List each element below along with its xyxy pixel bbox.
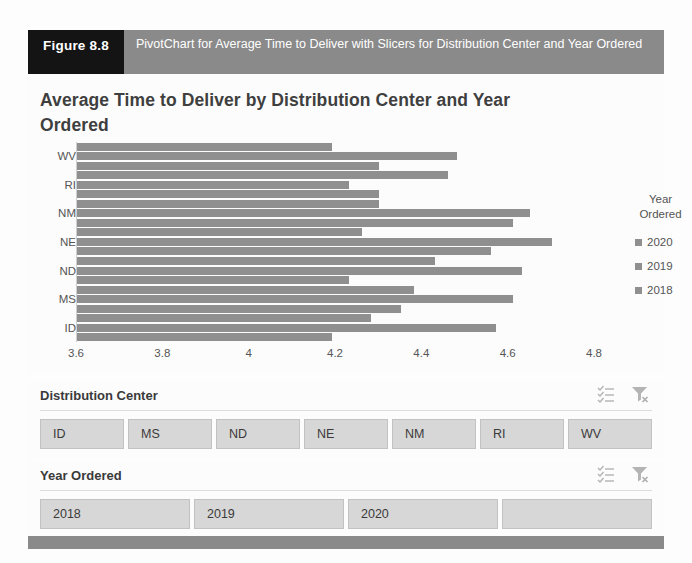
slicer-title: Distribution Center — [40, 388, 158, 403]
bar-group — [77, 171, 594, 200]
bar[interactable] — [77, 190, 379, 198]
category-label: WV — [30, 150, 76, 162]
category-label: RI — [30, 179, 76, 191]
bar[interactable] — [77, 305, 401, 313]
x-axis-tick: 4.8 — [586, 347, 602, 359]
bar[interactable] — [77, 238, 552, 246]
slicer-item[interactable]: 2019 — [194, 499, 344, 529]
clear-filter-icon[interactable] — [630, 384, 650, 404]
multi-select-icon[interactable] — [596, 384, 616, 404]
slicer-header: Year Ordered — [28, 462, 664, 488]
slicer-item-list: 201820192020 — [28, 491, 664, 539]
slicer-item[interactable]: NM — [392, 419, 476, 449]
x-axis-tick: 3.6 — [68, 347, 84, 359]
slicer-item[interactable]: WV — [568, 419, 652, 449]
chart-title: Average Time to Deliver by Distribution … — [40, 88, 520, 138]
bar[interactable] — [77, 143, 332, 151]
slicer-item[interactable]: ID — [40, 419, 124, 449]
multi-select-icon[interactable] — [596, 464, 616, 484]
figure-caption-bar: Figure 8.8 PivotChart for Average Time t… — [28, 30, 664, 74]
legend-swatch — [635, 287, 642, 294]
bar-group — [77, 228, 594, 257]
slicer-title: Year Ordered — [40, 468, 122, 483]
bar[interactable] — [77, 247, 491, 255]
slicer-tools — [596, 464, 650, 484]
bar[interactable] — [77, 181, 349, 189]
bar[interactable] — [77, 219, 513, 227]
chart-plot-wrapper: WVRINMNENDMSID 3.63.844.24.44.64.8 — [28, 142, 664, 357]
chart-plot-area[interactable] — [76, 142, 594, 342]
category-label: ND — [30, 265, 76, 277]
bar-group — [77, 256, 594, 285]
legend-title: Year Ordered — [613, 192, 692, 222]
bar[interactable] — [77, 257, 435, 265]
bar[interactable] — [77, 209, 530, 217]
legend-swatch — [635, 239, 642, 246]
legend-item: 2019 — [613, 260, 692, 272]
legend-title-line1: Year — [613, 192, 692, 207]
slicer-item-empty — [502, 499, 652, 529]
bar[interactable] — [77, 228, 362, 236]
bar-group — [77, 142, 594, 171]
bar[interactable] — [77, 324, 496, 332]
slicer-item[interactable]: 2020 — [348, 499, 498, 529]
x-axis-tick: 4.2 — [327, 347, 343, 359]
slicer-item[interactable]: ND — [216, 419, 300, 449]
legend-label: 2020 — [647, 236, 673, 248]
slicer-item-list: IDMSNDNENMRIWV — [28, 411, 664, 459]
slicer-item[interactable]: 2018 — [40, 499, 190, 529]
x-axis-tick-labels: 3.63.844.24.44.64.8 — [76, 342, 636, 366]
x-axis-tick: 4.4 — [413, 347, 429, 359]
clear-filter-icon[interactable] — [630, 464, 650, 484]
bar-group — [77, 313, 594, 342]
slicer-tools — [596, 384, 650, 404]
x-axis-tick: 3.8 — [154, 347, 170, 359]
bar[interactable] — [77, 276, 349, 284]
bar[interactable] — [77, 314, 371, 322]
bar[interactable] — [77, 171, 448, 179]
bar[interactable] — [77, 152, 457, 160]
category-label: NM — [30, 207, 76, 219]
legend-label: 2019 — [647, 260, 673, 272]
bar[interactable] — [77, 162, 379, 170]
legend-item-list: 202020192018 — [613, 236, 692, 296]
chart-legend: Year Ordered 202020192018 — [613, 192, 692, 308]
bar[interactable] — [77, 200, 379, 208]
legend-title-line2: Ordered — [613, 207, 692, 222]
slicer-item[interactable]: RI — [480, 419, 564, 449]
category-label: ID — [30, 322, 76, 334]
bar[interactable] — [77, 295, 513, 303]
slicer-distribution-center[interactable]: Distribution Center IDMSNDNENMRIWV — [28, 382, 664, 459]
slicer-item[interactable]: MS — [128, 419, 212, 449]
bar[interactable] — [77, 267, 522, 275]
bar[interactable] — [77, 333, 332, 341]
slicer-year-ordered[interactable]: Year Ordered 201820192020 — [28, 462, 664, 539]
figure-footer-bar — [28, 536, 664, 549]
bar-group — [77, 199, 594, 228]
figure-page: Figure 8.8 PivotChart for Average Time t… — [0, 0, 692, 563]
legend-label: 2018 — [647, 284, 673, 296]
y-axis-category-labels: WVRINMNENDMSID — [28, 142, 76, 342]
bar[interactable] — [77, 286, 414, 294]
legend-item: 2018 — [613, 284, 692, 296]
pivotchart[interactable]: Average Time to Deliver by Distribution … — [28, 74, 664, 374]
slicer-item[interactable]: NE — [304, 419, 388, 449]
bar-group — [77, 285, 594, 314]
category-label: NE — [30, 236, 76, 248]
slicer-header: Distribution Center — [28, 382, 664, 408]
legend-swatch — [635, 263, 642, 270]
x-axis-tick: 4.6 — [500, 347, 516, 359]
figure-number: Figure 8.8 — [28, 30, 124, 74]
figure-caption-text: PivotChart for Average Time to Deliver w… — [124, 30, 664, 74]
category-label: MS — [30, 293, 76, 305]
legend-item: 2020 — [613, 236, 692, 248]
x-axis-tick: 4 — [245, 347, 251, 359]
